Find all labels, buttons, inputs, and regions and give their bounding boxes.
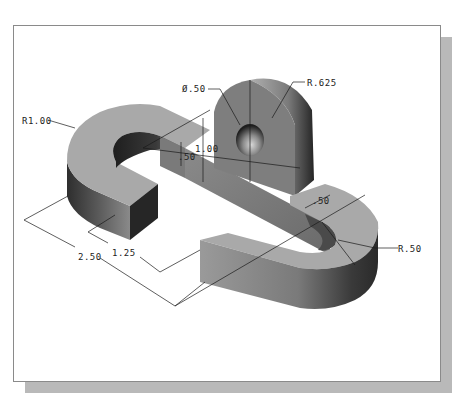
- dim-boss-radius: R.625: [307, 78, 337, 88]
- dim-boss-height: 1.00: [195, 144, 219, 154]
- dim-leg-length: 1.25: [112, 248, 136, 258]
- dim-hole-diameter: Ø.50: [182, 84, 206, 94]
- dim-slot-width-left: .50: [178, 152, 196, 162]
- dim-outer-radius-left: R1.00: [22, 116, 52, 126]
- dim-slot-width-right: .50: [312, 196, 330, 206]
- isometric-part-drawing: Ø.50 R.625 R1.00 .50 1.00 .50 R.50 1.25 …: [0, 0, 463, 400]
- dim-overall-length: 2.50: [78, 252, 102, 262]
- dim-inner-radius-right: R.50: [398, 244, 422, 254]
